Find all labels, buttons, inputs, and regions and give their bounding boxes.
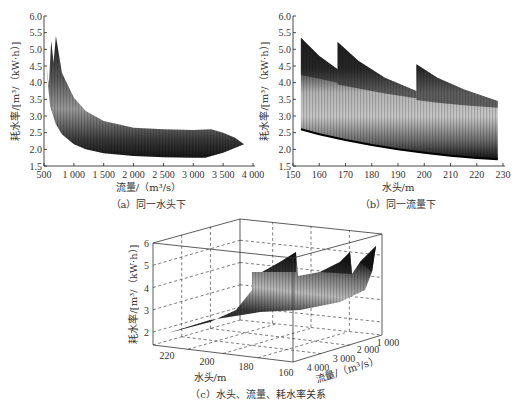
y-tick-label: 2.5: [279, 127, 292, 138]
x-tick-label: 3 500: [212, 169, 235, 180]
x-axis-label: 流量/（m³/s）: [116, 181, 181, 193]
x-tick-label: 2 000: [122, 169, 145, 180]
discharge-tick-label: 1 000: [377, 337, 400, 348]
y-tick-label: 6.0: [279, 11, 292, 22]
y-tick-label: 4.5: [30, 61, 43, 72]
sawtooth-segment: [416, 64, 497, 107]
y-tick-label: 3.5: [279, 94, 292, 105]
surface-band-hatching: [46, 36, 244, 158]
chart-panel-c: 234562202001801604 0003 0002 0001 000水头/…: [127, 219, 399, 400]
y-tick-label: 2.5: [30, 127, 43, 138]
x-tick-label: 4 000: [242, 169, 265, 180]
y-tick-label: 3.5: [30, 94, 43, 105]
z-tick-label: 2: [144, 327, 149, 338]
panel-caption: （b）同一流量下: [360, 198, 436, 210]
y-tick-label: 4.0: [30, 77, 43, 88]
x-tick-label: 170: [338, 169, 353, 180]
panel-caption: （c）水头、流量、耗水率关系: [190, 388, 326, 400]
y-tick-label: 6.0: [30, 11, 43, 22]
x-axis-label: 水头/m: [382, 182, 415, 193]
x-tick-label: 3 000: [182, 169, 205, 180]
y-tick-label: 5.0: [279, 44, 292, 55]
x-tick-label: 210: [443, 169, 458, 180]
z-tick-label: 6: [144, 238, 149, 249]
x-axis-label: 水头/m: [194, 372, 227, 383]
z-tick-label: 3: [144, 305, 149, 316]
y-axis-label: 耗水率/[m³/（kW·h）]: [258, 41, 270, 140]
x-tick-label: 180: [364, 169, 379, 180]
figure-canvas: 1.52.02.53.03.54.04.55.05.56.05001 0001 …: [0, 0, 517, 407]
head-tick-label: 180: [239, 361, 254, 372]
x-tick-label: 1 000: [63, 169, 86, 180]
panel-caption: （a）同一水头下: [111, 199, 187, 210]
y-tick-label: 5.5: [30, 27, 43, 38]
surface-crest: [320, 252, 352, 274]
x-tick-label: 190: [391, 169, 406, 180]
z-axis-label: 耗水率/[m³/（kW·h）]: [127, 244, 139, 343]
x-tick-label: 150: [286, 169, 301, 180]
y-tick-label: 4.5: [279, 61, 292, 72]
y-tick-label: 2.0: [30, 144, 43, 155]
y-tick-label: 4.0: [279, 77, 292, 88]
head-tick-label: 220: [160, 350, 175, 361]
y-tick-label: 3.0: [30, 111, 43, 122]
head-tick-label: 160: [279, 367, 294, 378]
y-tick-label: 5.0: [30, 44, 43, 55]
y-axis-label: 耗水率/[m³/（kW·h）]: [9, 41, 21, 140]
y-tick-label: 5.5: [279, 27, 292, 38]
sawtooth-segment: [301, 38, 338, 83]
z-tick-label: 5: [144, 260, 149, 271]
y-tick-label: 3.0: [279, 111, 292, 122]
x-tick-label: 230: [496, 169, 511, 180]
chart-panel-b: 1.52.02.53.03.54.04.55.05.56.01501601701…: [258, 11, 511, 211]
x-tick-label: 160: [312, 169, 327, 180]
y-tick-label: 2.0: [279, 144, 292, 155]
x-tick-label: 2 500: [152, 169, 175, 180]
x-tick-label: 1 500: [92, 169, 115, 180]
x-tick-label: 220: [469, 169, 484, 180]
chart-panel-a: 1.52.02.53.03.54.04.55.05.56.05001 0001 …: [9, 11, 264, 211]
z-tick-label: 4: [144, 283, 149, 294]
x-tick-label: 500: [37, 169, 52, 180]
x-tick-label: 200: [417, 169, 432, 180]
head-tick-label: 200: [200, 356, 215, 367]
